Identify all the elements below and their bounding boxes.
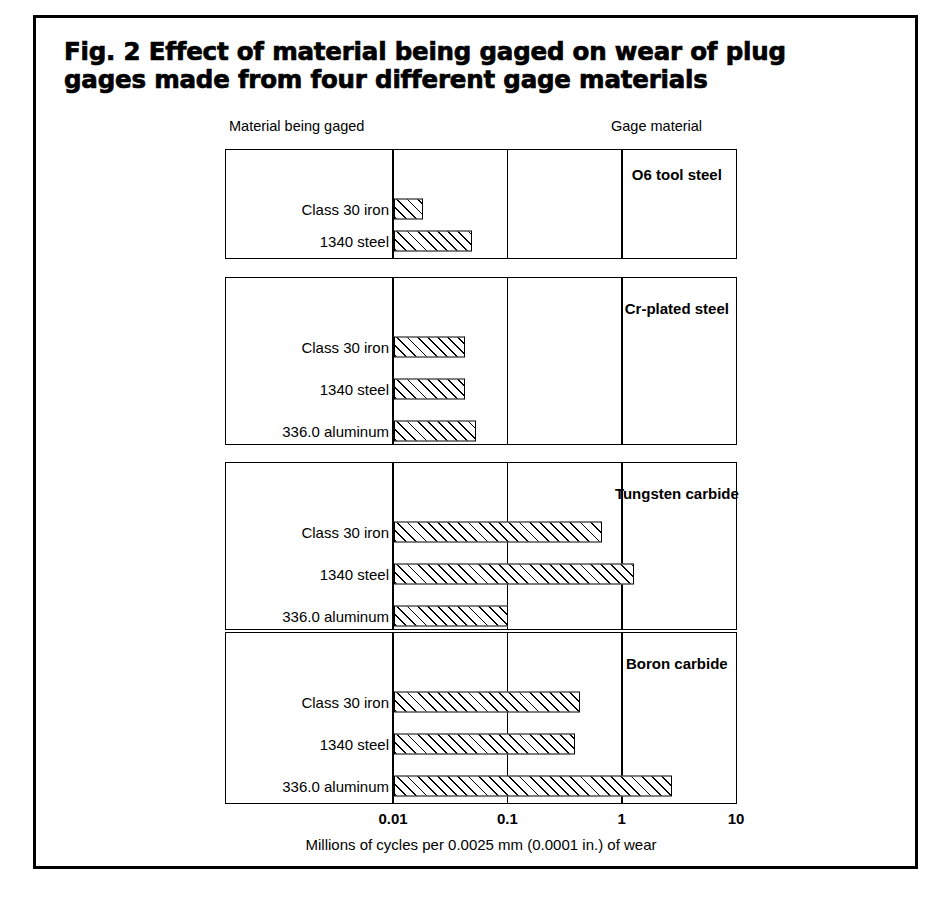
chart-panel: Boron carbideClass 30 iron1340 steel336.… [225,632,737,804]
chart-bar [394,606,508,627]
chart-bar [394,522,602,543]
chart-plot-area: Material being gaged Gage material O6 to… [225,118,737,858]
row-category-label: Class 30 iron [301,339,389,356]
x-axis: 0.010.1110 Millions of cycles per 0.0025… [225,808,737,858]
chart-bar [394,734,575,755]
row-category-label: 1340 steel [320,566,389,583]
chart-row: 336.0 aluminum [226,418,736,444]
chart-row: 1340 steel [226,376,736,402]
chart-row: 336.0 aluminum [226,773,736,799]
chart-panel: O6 tool steelClass 30 iron1340 steel [225,149,737,259]
chart-panel: Cr-plated steelClass 30 iron1340 steel33… [225,277,737,445]
x-axis-tick-label: 0.01 [378,810,407,827]
chart-panel: Tungsten carbideClass 30 iron1340 steel3… [225,462,737,630]
panel-gage-material-label: Cr-plated steel [625,300,729,317]
panel-gage-material-label: O6 tool steel [632,166,722,183]
row-category-label: 336.0 aluminum [282,778,389,795]
x-axis-tick-label: 0.1 [497,810,518,827]
chart-row: Class 30 iron [226,196,736,222]
chart-bar [394,564,634,585]
row-category-label: 1340 steel [320,233,389,250]
chart-row: 1340 steel [226,561,736,587]
chart-bar [394,379,465,400]
row-category-label: 336.0 aluminum [282,423,389,440]
chart-bar [394,421,476,442]
row-category-label: Class 30 iron [301,524,389,541]
column-header-gage-material: Gage material [611,118,702,134]
panel-gage-material-label: Boron carbide [626,655,728,672]
chart-bar [394,337,465,358]
row-category-label: 1340 steel [320,381,389,398]
row-category-label: 1340 steel [320,736,389,753]
x-axis-tick-label: 1 [617,810,625,827]
panel-gage-material-label: Tungsten carbide [615,485,739,502]
x-axis-caption: Millions of cycles per 0.0025 mm (0.0001… [306,836,657,853]
row-category-label: 336.0 aluminum [282,608,389,625]
figure-frame: Fig. 2 Effect of material being gaged on… [33,15,918,869]
row-category-label: Class 30 iron [301,201,389,218]
chart-row: 1340 steel [226,228,736,254]
column-header-material-being-gaged: Material being gaged [229,118,364,134]
chart-bar [394,231,472,252]
x-axis-tick-label: 10 [728,810,745,827]
chart-bar [394,199,423,220]
figure-title: Fig. 2 Effect of material being gaged on… [64,38,864,95]
chart-row: 1340 steel [226,731,736,757]
chart-bar [394,692,580,713]
chart-row: Class 30 iron [226,334,736,360]
row-category-label: Class 30 iron [301,694,389,711]
chart-bar [394,776,672,797]
chart-row: Class 30 iron [226,689,736,715]
chart-row: 336.0 aluminum [226,603,736,629]
chart-row: Class 30 iron [226,519,736,545]
